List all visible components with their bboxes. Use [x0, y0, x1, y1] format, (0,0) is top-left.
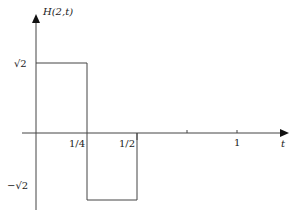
x-tick-label-half: 1/2: [119, 138, 135, 149]
x-tick-label-quarter: 1/4: [69, 138, 85, 149]
x-axis-label: t: [281, 138, 285, 149]
y-axis-label: H(2,t): [43, 6, 73, 17]
x-axis-arrow-icon: [280, 129, 289, 137]
y-tick-label-neg-sqrt2: −√2: [7, 180, 28, 191]
positive-segment: [36, 63, 87, 133]
y-axis-arrow-icon: [32, 14, 40, 23]
haar-function-plot: [0, 0, 295, 222]
x-tick-label-one: 1: [234, 137, 240, 148]
y-tick-label-sqrt2: √2: [14, 58, 27, 69]
